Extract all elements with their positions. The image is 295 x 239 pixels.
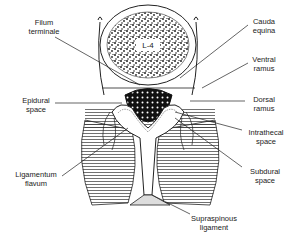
label-filum-terminale: Filum terminale xyxy=(24,18,64,36)
label-line: Dorsal xyxy=(246,95,282,104)
label-line: Cauda xyxy=(246,17,282,26)
label-line: space xyxy=(16,105,56,114)
label-line: Supraspinous xyxy=(186,214,242,223)
vertebral-body-l4: L-4 xyxy=(100,5,196,85)
label-ligamentum-flavum: Ligamentum flavum xyxy=(10,170,62,188)
label-line: Intrathecal xyxy=(241,128,291,137)
label-cauda-equina: Cauda equina xyxy=(246,17,282,35)
leader-ventral-ramus xyxy=(202,63,248,88)
label-subdural-space: Subdural space xyxy=(243,167,287,185)
label-line: flavum xyxy=(10,179,62,188)
label-line: space xyxy=(241,137,291,146)
label-epidural-space: Epidural space xyxy=(16,96,56,114)
label-line: ramus xyxy=(246,64,282,73)
label-line: terminale xyxy=(24,27,64,36)
label-ventral-ramus: Ventral ramus xyxy=(246,55,282,73)
label-line: ramus xyxy=(246,104,282,113)
label-line: Epidural xyxy=(16,96,56,105)
label-line: Filum xyxy=(24,18,64,27)
label-supraspinous-ligament: Supraspinous ligament xyxy=(186,214,242,232)
label-intrathecal-space: Intrathecal space xyxy=(241,128,291,146)
label-dorsal-ramus: Dorsal ramus xyxy=(246,95,282,113)
label-line: Ligamentum xyxy=(10,170,62,179)
label-line: Ventral xyxy=(246,55,282,64)
label-line: ligament xyxy=(186,223,242,232)
vertebra-label: L-4 xyxy=(142,41,154,50)
label-line: Subdural xyxy=(243,167,287,176)
label-line: equina xyxy=(246,26,282,35)
label-line: space xyxy=(243,176,287,185)
